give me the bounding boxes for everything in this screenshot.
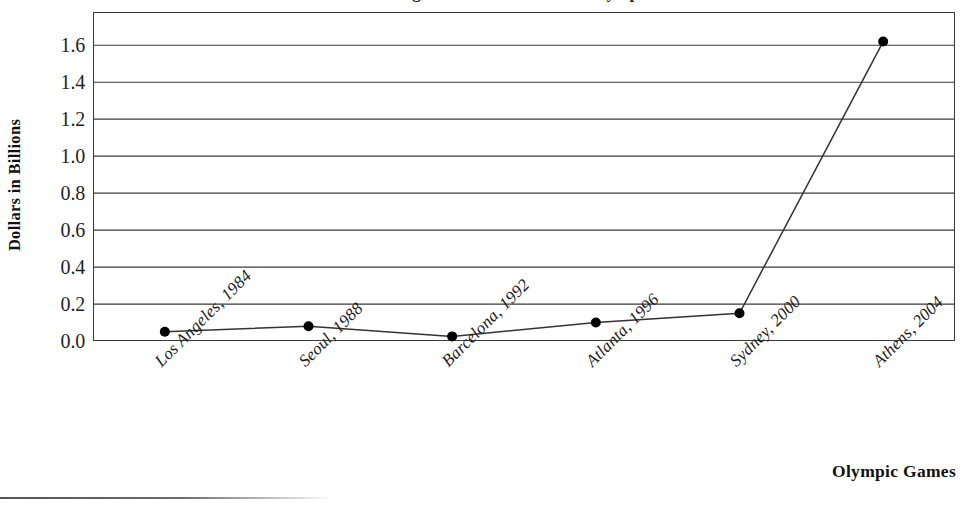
- y-axis-title-text: Dollars in Billions: [5, 119, 25, 251]
- y-axis-title: Dollars in Billions: [2, 60, 28, 310]
- y-axis-tick-label: 1.0: [61, 146, 85, 166]
- y-axis-tick-label: 0.4: [61, 257, 85, 277]
- bottom-horizontal-rule: [0, 497, 332, 499]
- y-axis-tick-label: 1.2: [61, 109, 85, 129]
- chart-figure: Broadcast Rights Revenue, Summer Olympic…: [0, 0, 974, 511]
- y-axis-tick-label: 0.8: [61, 183, 85, 203]
- y-axis-tick-label: 0.2: [61, 294, 85, 314]
- data-point-marker: [591, 318, 601, 328]
- data-point-marker: [878, 37, 888, 47]
- chart-title: Broadcast Rights Revenue, Summer Olympic…: [0, 0, 974, 3]
- y-axis-tick-label: 1.6: [61, 35, 85, 55]
- data-point-marker: [735, 308, 745, 318]
- gridlines: [93, 45, 955, 304]
- y-axis-tick-label: 0.6: [61, 220, 85, 240]
- x-axis-category-labels: Los Angeles, 1984Seoul, 1988Barcelona, 1…: [0, 341, 974, 471]
- y-axis-tick-labels: 0.00.20.40.60.81.01.21.41.6: [34, 12, 89, 341]
- x-axis-title: Olympic Games: [832, 461, 956, 482]
- data-point-marker: [160, 327, 170, 337]
- data-point-marker: [304, 321, 314, 331]
- y-axis-tick-label: 1.4: [61, 72, 85, 92]
